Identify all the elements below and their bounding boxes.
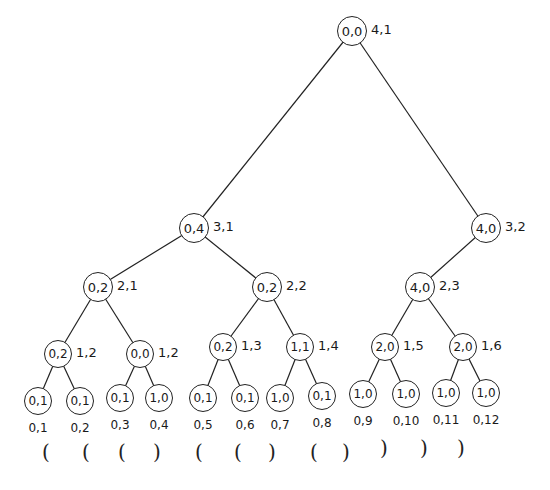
node-annotation: 2,1 [117,278,138,293]
open-paren: ( [42,440,50,464]
tree-edge [194,31,352,228]
node-annotation: 0,11 [426,413,466,427]
tree-node: 0,2 [83,272,113,302]
tree-node: 0,0 [337,16,367,46]
open-paren: ( [195,440,203,464]
close-paren: ) [380,436,388,460]
tree-node: 0,2 [209,333,237,361]
tree-node: 0,2 [44,340,72,368]
node-annotation: 0,9 [343,414,383,428]
node-annotation: 1,2 [158,345,179,360]
open-paren: ( [82,440,90,464]
node-annotation: 1,3 [241,338,262,353]
open-paren: ( [310,440,318,464]
node-annotation: 0,6 [225,418,265,432]
tree-node: 2,0 [449,333,477,361]
open-paren: ( [234,440,242,464]
node-annotation: 2,2 [286,278,307,293]
node-annotation: 0,1 [18,421,58,435]
node-annotation: 1,5 [403,338,424,353]
tree-node: 0,1 [24,387,52,415]
node-annotation: 0,4 [139,418,179,432]
tree-edge [352,31,486,228]
tree-node: 0,1 [231,384,259,412]
node-annotation: 3,2 [505,219,526,234]
tree-node: 0,4 [179,213,209,243]
tree-node: 4,0 [405,272,435,302]
node-annotation: 3,1 [213,219,234,234]
node-annotation: 0,5 [183,418,223,432]
node-annotation: 2,3 [439,278,460,293]
close-paren: ) [420,436,428,460]
open-paren: ( [118,440,126,464]
tree-node: 1,0 [432,379,460,407]
tree-node: 0,2 [252,272,282,302]
tree-node: 1,0 [145,384,173,412]
tree-node: 0,1 [106,384,134,412]
node-annotation: 0,7 [260,418,300,432]
tree-node: 2,0 [371,333,399,361]
tree-node: 1,0 [472,379,500,407]
tree-node: 0,1 [66,387,94,415]
node-annotation: 0,12 [466,413,506,427]
tree-node: 0,0 [126,340,154,368]
tree-node: 0,1 [189,384,217,412]
close-paren: ) [342,440,350,464]
node-annotation: 0,3 [100,418,140,432]
tree-node: 1,0 [349,380,377,408]
node-annotation: 0,2 [60,421,100,435]
tree-edge [98,228,194,287]
node-annotation: 0,10 [386,414,426,428]
tree-node: 1,0 [266,384,294,412]
tree-node: 1,1 [286,333,314,361]
node-annotation: 4,1 [371,22,392,37]
close-paren: ) [268,440,276,464]
close-paren: ) [153,440,161,464]
node-annotation: 1,6 [481,338,502,353]
tree-node: 1,0 [392,380,420,408]
tree-node: 0,1 [308,382,336,410]
node-annotation: 1,4 [318,338,339,353]
node-annotation: 1,2 [76,345,97,360]
close-paren: ) [457,436,465,460]
node-annotation: 0,8 [302,416,342,430]
tree-diagram: 0,04,10,43,14,03,20,22,10,22,24,02,30,21… [0,0,550,490]
tree-node: 4,0 [471,213,501,243]
